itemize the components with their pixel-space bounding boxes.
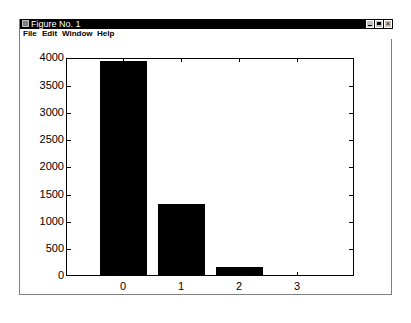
y-tick xyxy=(349,222,353,223)
y-axis-labels: 0 500 1000 1500 2000 2500 3000 3500 4000 xyxy=(20,0,64,323)
title-bar[interactable]: Figure No. 1 × xyxy=(20,19,393,29)
y-tick xyxy=(67,249,71,250)
y-tick-label: 3000 xyxy=(24,106,64,118)
bar-0 xyxy=(100,61,147,275)
y-tick xyxy=(349,167,353,168)
y-tick xyxy=(67,195,71,196)
y-tick-label: 2500 xyxy=(24,133,64,145)
y-tick xyxy=(67,86,71,87)
y-tick xyxy=(67,222,71,223)
y-tick xyxy=(349,195,353,196)
y-tick xyxy=(67,113,71,114)
menu-bar: File Edit Window Help xyxy=(20,29,393,39)
x-tick xyxy=(239,59,240,62)
y-tick xyxy=(67,140,71,141)
menu-help[interactable]: Help xyxy=(97,29,114,39)
x-tick xyxy=(181,59,182,62)
bar-2 xyxy=(216,267,263,275)
maximize-button[interactable] xyxy=(375,20,383,28)
y-tick xyxy=(67,167,71,168)
y-tick-label: 1500 xyxy=(24,188,64,200)
y-tick-label: 500 xyxy=(24,242,64,254)
plot-axes xyxy=(66,58,354,276)
x-tick xyxy=(297,272,298,275)
minimize-button[interactable] xyxy=(366,20,374,28)
x-tick xyxy=(297,59,298,62)
y-tick xyxy=(349,249,353,250)
close-button[interactable]: × xyxy=(384,20,392,28)
y-tick-label: 3500 xyxy=(24,79,64,91)
menu-window[interactable]: Window xyxy=(62,29,93,39)
y-tick-label: 1000 xyxy=(24,215,64,227)
y-tick-label: 0 xyxy=(24,269,64,281)
minimize-icon xyxy=(368,25,372,26)
y-tick xyxy=(349,113,353,114)
close-icon: × xyxy=(386,20,390,27)
y-tick-label: 4000 xyxy=(24,51,64,63)
y-tick xyxy=(349,86,353,87)
x-tick-label: 3 xyxy=(287,280,307,292)
bar-1 xyxy=(158,204,205,275)
x-tick-label: 1 xyxy=(171,280,191,292)
maximize-icon xyxy=(377,22,381,25)
y-tick-label: 2000 xyxy=(24,160,64,172)
x-tick-label: 0 xyxy=(113,280,133,292)
y-tick xyxy=(349,140,353,141)
x-tick-label: 2 xyxy=(229,280,249,292)
